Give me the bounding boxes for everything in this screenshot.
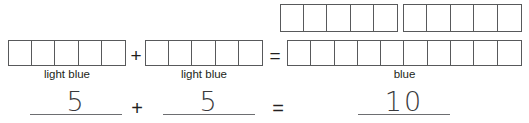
worksheet-canvas: + = light blue light blue blue 5 + 5 = 1… [0, 0, 529, 123]
bar-cell [79, 41, 102, 65]
bar-cell [498, 41, 521, 65]
bar-cell [288, 41, 311, 65]
top-addend-bar-1 [280, 4, 398, 32]
answer-sum: 10 [358, 88, 450, 115]
bar-cell [474, 41, 497, 65]
result-bar [287, 40, 522, 66]
bar-cell [102, 41, 125, 65]
bar-cell [351, 5, 374, 31]
bar-cell [169, 41, 192, 65]
equation-equals-operator: = [268, 98, 288, 118]
bar-cell [381, 41, 404, 65]
bar-cell [335, 41, 358, 65]
caption-addend-bar-1: light blue [8, 69, 126, 81]
bar-cell [404, 41, 427, 65]
model-equals-operator: = [265, 46, 285, 65]
bar-cell [498, 5, 521, 31]
answer-addend-2: 5 [163, 88, 255, 115]
bar-cell [404, 5, 427, 31]
bar-cell [451, 41, 474, 65]
bar-cell [9, 41, 32, 65]
bar-cell [451, 5, 474, 31]
caption-result-bar: blue [287, 69, 522, 81]
bar-cell [427, 5, 450, 31]
equation-plus-operator: + [128, 98, 146, 118]
bar-cell [358, 41, 381, 65]
bar-cell [281, 5, 304, 31]
caption-addend-bar-2: light blue [145, 69, 263, 81]
bar-cell [239, 41, 262, 65]
bar-cell [474, 5, 497, 31]
top-addend-bar-2 [403, 4, 522, 32]
bar-cell [304, 5, 327, 31]
bar-cell [327, 5, 350, 31]
bar-cell [311, 41, 334, 65]
bar-cell [146, 41, 169, 65]
addend-bar-2 [145, 40, 263, 66]
bar-cell [32, 41, 55, 65]
bar-cell [192, 41, 215, 65]
bar-cell [428, 41, 451, 65]
bar-cell [216, 41, 239, 65]
bar-cell [374, 5, 397, 31]
answer-addend-1: 5 [30, 88, 122, 115]
model-plus-operator: + [127, 46, 145, 65]
bar-cell [55, 41, 78, 65]
addend-bar-1 [8, 40, 126, 66]
